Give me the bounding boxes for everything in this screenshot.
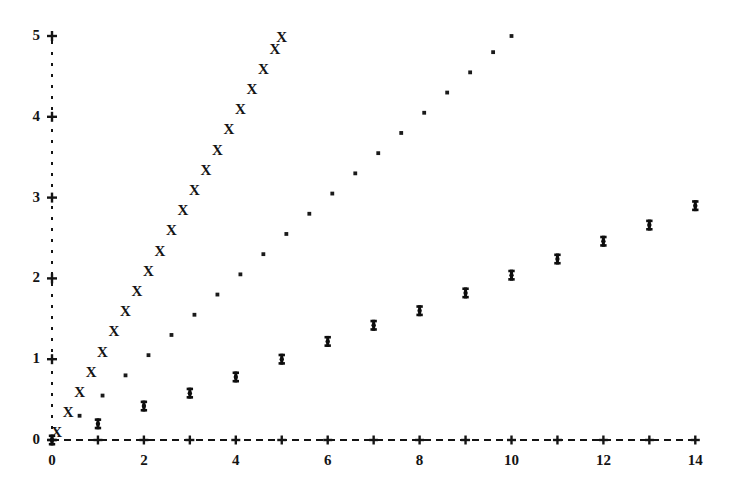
y-axis-tick-label: 4 bbox=[18, 108, 40, 125]
data-point-linear-x-series: X bbox=[120, 303, 131, 319]
data-point-logarithmic-bold-series bbox=[462, 287, 468, 298]
data-point-linear-x-series: X bbox=[109, 323, 120, 339]
data-point-logarithmic-bold-series bbox=[325, 336, 331, 347]
data-point-linear-x-series: X bbox=[235, 101, 246, 117]
data-point-half-slope-dot-series bbox=[78, 414, 82, 418]
data-point-linear-x-series: X bbox=[189, 182, 200, 198]
marker-center-dot bbox=[555, 257, 559, 261]
data-point-linear-x-series: X bbox=[74, 384, 85, 400]
data-point-linear-x-series: X bbox=[143, 263, 154, 279]
data-point-logarithmic-bold-series bbox=[554, 254, 560, 265]
x-axis-tick bbox=[599, 436, 608, 445]
data-point-half-slope-dot-series bbox=[147, 353, 151, 357]
data-point-linear-x-series: X bbox=[86, 364, 97, 380]
data-point-logarithmic-bold-series bbox=[416, 305, 422, 316]
x-axis-tick bbox=[277, 436, 286, 445]
data-point-linear-x-series: X bbox=[97, 344, 108, 360]
x-axis-tick bbox=[323, 436, 332, 445]
data-point-logarithmic-bold-series bbox=[141, 401, 147, 412]
x-axis-tick bbox=[231, 436, 240, 445]
y-axis-tick-label: 5 bbox=[18, 27, 40, 44]
data-point-half-slope-dot-series bbox=[238, 272, 242, 276]
y-axis-tick bbox=[47, 31, 57, 41]
data-point-logarithmic-bold-series bbox=[508, 270, 514, 281]
y-axis-tick-label: 0 bbox=[18, 431, 40, 448]
y-axis-tick-label: 1 bbox=[18, 350, 40, 367]
marker-center-dot bbox=[509, 273, 513, 277]
marker-center-dot bbox=[693, 203, 697, 207]
x-axis-tick-label: 10 bbox=[496, 452, 528, 469]
data-point-logarithmic-bold-series bbox=[95, 418, 101, 429]
marker-center-dot bbox=[50, 438, 54, 442]
data-point-half-slope-dot-series bbox=[353, 171, 357, 175]
data-point-half-slope-dot-series bbox=[376, 151, 380, 155]
x-axis-tick-label: 2 bbox=[128, 452, 160, 469]
data-point-linear-x-series: X bbox=[276, 29, 287, 45]
data-point-half-slope-dot-series bbox=[422, 111, 426, 115]
data-point-linear-x-series: X bbox=[178, 202, 189, 218]
x-axis-tick bbox=[369, 436, 378, 445]
data-point-half-slope-dot-series bbox=[510, 34, 514, 38]
x-axis-tick bbox=[645, 436, 654, 445]
data-point-logarithmic-bold-series bbox=[646, 220, 652, 231]
plot-axes-svg: XXXXXXXXXXXXXXXXXXXXX bbox=[0, 0, 731, 486]
marker-center-dot bbox=[601, 239, 605, 243]
data-point-linear-x-series: X bbox=[155, 243, 166, 259]
x-axis-tick bbox=[415, 436, 424, 445]
marker-center-dot bbox=[463, 291, 467, 295]
x-axis-tick-label: 14 bbox=[679, 452, 711, 469]
marker-center-dot bbox=[234, 375, 238, 379]
data-point-logarithmic-bold-series bbox=[370, 320, 376, 331]
marker-center-dot bbox=[371, 323, 375, 327]
x-axis-tick bbox=[185, 436, 194, 445]
x-axis-tick-label: 6 bbox=[312, 452, 344, 469]
y-axis-tick bbox=[47, 354, 57, 364]
data-point-logarithmic-bold-series bbox=[233, 371, 239, 382]
y-axis-tick bbox=[47, 112, 57, 122]
y-axis-tick bbox=[47, 273, 57, 283]
data-point-linear-x-series: X bbox=[246, 81, 257, 97]
data-point-half-slope-dot-series bbox=[399, 131, 403, 135]
data-point-half-slope-dot-series bbox=[216, 293, 220, 297]
scatter-plot: XXXXXXXXXXXXXXXXXXXXX 01234502468101214 bbox=[0, 0, 731, 486]
x-axis-tick bbox=[139, 436, 148, 445]
x-axis-tick-label: 0 bbox=[36, 452, 68, 469]
x-axis-tick bbox=[461, 436, 470, 445]
data-point-half-slope-dot-series bbox=[193, 313, 197, 317]
data-point-logarithmic-bold-series bbox=[600, 236, 606, 247]
data-point-half-slope-dot-series bbox=[124, 373, 128, 377]
data-point-half-slope-dot-series bbox=[445, 91, 449, 95]
data-point-half-slope-dot-series bbox=[330, 192, 334, 196]
x-axis-tick bbox=[507, 436, 516, 445]
data-point-half-slope-dot-series bbox=[284, 232, 288, 236]
marker-center-dot bbox=[188, 391, 192, 395]
marker-center-dot bbox=[417, 309, 421, 313]
data-point-linear-x-series: X bbox=[258, 61, 269, 77]
x-axis-tick bbox=[691, 436, 700, 445]
data-point-linear-x-series: X bbox=[201, 162, 212, 178]
x-axis-tick bbox=[93, 436, 102, 445]
data-point-linear-x-series: X bbox=[223, 121, 234, 137]
y-axis-tick-label: 3 bbox=[18, 189, 40, 206]
data-point-linear-x-series: X bbox=[63, 404, 74, 420]
marker-center-dot bbox=[647, 223, 651, 227]
data-point-logarithmic-bold-series bbox=[692, 200, 698, 211]
x-axis-tick-label: 4 bbox=[220, 452, 252, 469]
data-point-linear-x-series: X bbox=[166, 222, 177, 238]
marker-center-dot bbox=[280, 357, 284, 361]
data-point-half-slope-dot-series bbox=[261, 252, 265, 256]
data-point-linear-x-series: X bbox=[132, 283, 143, 299]
y-axis-tick bbox=[47, 193, 57, 203]
marker-center-dot bbox=[326, 339, 330, 343]
marker-center-dot bbox=[142, 404, 146, 408]
data-point-half-slope-dot-series bbox=[468, 70, 472, 74]
y-axis-tick-label: 2 bbox=[18, 269, 40, 286]
data-point-half-slope-dot-series bbox=[170, 333, 174, 337]
x-axis-tick-label: 12 bbox=[587, 452, 619, 469]
data-point-half-slope-dot-series bbox=[101, 394, 105, 398]
data-point-half-slope-dot-series bbox=[307, 212, 311, 216]
x-axis-tick bbox=[553, 436, 562, 445]
data-point-logarithmic-bold-series bbox=[279, 354, 285, 365]
marker-center-dot bbox=[96, 422, 100, 426]
data-point-logarithmic-bold-series bbox=[187, 388, 193, 399]
